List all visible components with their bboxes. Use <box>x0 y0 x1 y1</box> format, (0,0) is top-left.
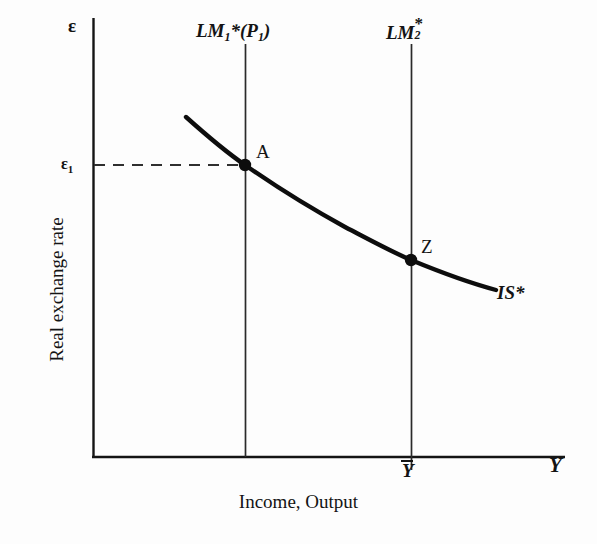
is-curve <box>186 117 496 290</box>
lm2-script-stack: *2 <box>415 20 424 39</box>
epsilon1-base: ε <box>61 155 68 172</box>
x-axis-title: Income, Output <box>0 492 597 511</box>
point-a-label: A <box>256 142 270 161</box>
y-axis-tick-label-epsilon1: ε1 <box>61 156 73 175</box>
epsilon1-subscript: 1 <box>68 163 74 175</box>
point-a-marker <box>239 159 251 171</box>
lm1-tail: ) <box>264 20 270 41</box>
lm1-mid: *(P <box>231 20 258 41</box>
lm1-curve-label: LM1*(P1) <box>196 21 270 43</box>
x-axis-tick-label-ybar: Y <box>402 460 414 480</box>
diagram-canvas <box>0 0 597 544</box>
x-axis-symbol: Y <box>549 455 562 476</box>
point-z-label: Z <box>421 237 433 256</box>
y-axis-title: Real exchange rate <box>47 175 66 405</box>
lm2-base: LM <box>386 22 415 43</box>
y-axis-symbol: ε <box>68 16 76 35</box>
lm2-curve-label: LM*2 <box>386 20 424 42</box>
economics-diagram-figure: ε Y Real exchange rate Income, Output ε1… <box>0 0 597 544</box>
is-curve-label: IS* <box>497 283 524 302</box>
lm2-subscript: 2 <box>415 29 421 41</box>
point-z-marker <box>405 254 417 266</box>
lm1-base: LM <box>196 20 225 41</box>
ybar-base: Y <box>402 460 414 480</box>
